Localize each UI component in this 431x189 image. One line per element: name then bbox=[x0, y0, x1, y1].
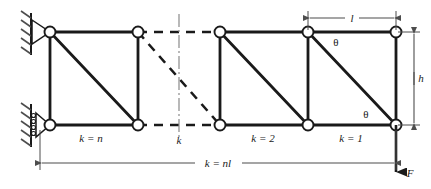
node-bottom-1 bbox=[133, 120, 144, 131]
diagonal-panel-n bbox=[50, 32, 138, 125]
node-top-2 bbox=[215, 27, 226, 38]
panel-label-k: k bbox=[177, 134, 183, 146]
truss-nodes bbox=[45, 27, 402, 131]
truss-diagram: k = n k k = 2 k = 1 k = nl l h θ θ F bbox=[0, 0, 431, 189]
force-label-F: F bbox=[406, 167, 414, 179]
panel-label-n: k = n bbox=[79, 132, 103, 144]
truss-diagram-canvas: k = n k k = 2 k = 1 k = nl l h θ θ F bbox=[0, 0, 431, 189]
node-bottom-left bbox=[45, 120, 56, 131]
theta-label-lower: θ bbox=[363, 108, 368, 120]
theta-label-upper: θ bbox=[333, 36, 338, 48]
node-top-left bbox=[45, 27, 56, 38]
length-label-l: l bbox=[350, 12, 353, 24]
node-top-1 bbox=[133, 27, 144, 38]
span-label: k = nl bbox=[205, 157, 231, 169]
height-label-h: h bbox=[418, 72, 424, 84]
diagonal-panel-1 bbox=[308, 32, 396, 125]
node-bottom-2 bbox=[215, 120, 226, 131]
dimension-height-h bbox=[398, 32, 420, 125]
truss-members bbox=[50, 32, 396, 125]
node-bottom-3 bbox=[303, 120, 314, 131]
panel-label-1: k = 1 bbox=[339, 132, 362, 144]
diagonal-panel-2 bbox=[220, 32, 308, 125]
panel-label-2: k = 2 bbox=[251, 132, 275, 144]
